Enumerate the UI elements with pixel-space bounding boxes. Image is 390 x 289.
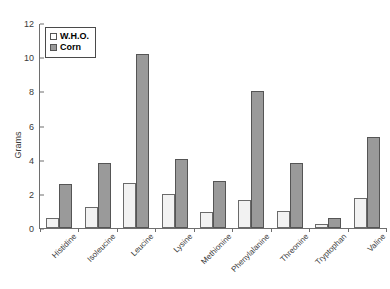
x-axis-label: Phenylalanine <box>230 232 272 274</box>
x-axis-label: Leucine <box>130 232 156 258</box>
bar-group <box>194 24 232 228</box>
bar-corn <box>59 184 72 228</box>
y-axis-title: Grams <box>13 131 23 158</box>
bar-who <box>277 211 290 228</box>
legend-swatch-corn-icon <box>50 44 57 51</box>
bar-corn <box>213 181 226 228</box>
bar-group <box>232 24 270 228</box>
bar-group <box>155 24 193 228</box>
bar-corn <box>98 163 111 228</box>
legend-label-who: W.H.O. <box>60 31 89 42</box>
bar-group <box>309 24 347 228</box>
bar-who <box>162 194 175 228</box>
bar-corn <box>136 54 149 228</box>
bar-group <box>271 24 309 228</box>
legend-item-who: W.H.O. <box>50 31 89 42</box>
y-axis-tick-label: 12 <box>24 19 40 29</box>
bar-who <box>85 207 98 228</box>
x-axis-label: Isoleucine <box>85 232 117 264</box>
y-axis-tick-label: 4 <box>29 156 40 166</box>
bar-corn <box>175 159 188 228</box>
x-axis-label: Threonine <box>278 232 310 264</box>
x-axis-label: Tryptophan <box>314 232 349 267</box>
legend: W.H.O. Corn <box>45 27 96 58</box>
y-axis-tick-label: 8 <box>29 87 40 97</box>
bar-corn <box>328 218 341 228</box>
y-axis-tick-label: 10 <box>24 53 40 63</box>
bar-corn <box>251 91 264 228</box>
x-axis-label: Valine <box>365 232 387 254</box>
bar-who <box>200 212 213 228</box>
bar-who <box>46 218 59 228</box>
y-axis-tick-label: 2 <box>29 190 40 200</box>
bar-group <box>348 24 386 228</box>
x-axis-label: Histidine <box>51 232 79 260</box>
bar-group <box>117 24 155 228</box>
legend-label-corn: Corn <box>60 42 81 53</box>
bar-corn <box>290 163 303 228</box>
y-axis-tick-label: 6 <box>29 122 40 132</box>
bar-who <box>238 200 251 228</box>
legend-swatch-who-icon <box>50 33 57 40</box>
x-axis-label: Methionine <box>199 232 233 266</box>
bar-who <box>354 198 367 228</box>
legend-item-corn: Corn <box>50 42 89 53</box>
x-axis-labels: HistidineIsoleucineLeucineLysineMethioni… <box>39 232 386 288</box>
bar-who <box>123 183 136 228</box>
x-axis-label: Lysine <box>172 232 195 255</box>
bar-chart: Grams 024681012 HistidineIsoleucineLeuci… <box>0 0 390 289</box>
x-axis-tick-mark <box>386 228 387 232</box>
bar-corn <box>367 137 380 228</box>
